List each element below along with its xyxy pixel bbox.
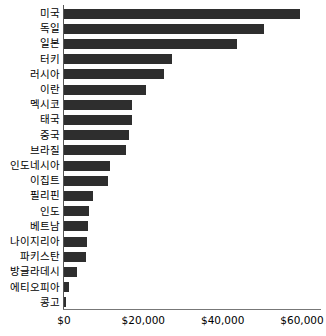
category-label: 방글라데시: [10, 264, 60, 278]
category-label: 콩고: [40, 295, 60, 309]
category-label: 독일: [40, 21, 60, 35]
category-label: 에티오피아: [10, 280, 60, 294]
bar-row: 이집트: [64, 174, 302, 189]
bar: [64, 39, 237, 49]
plot-area: 미국독일일본터키러시아이란멕시코태국중국브라질인도네시아이집트필리핀인도베트남나…: [64, 5, 302, 309]
x-tick-label: $0: [57, 314, 70, 327]
bar: [64, 267, 77, 277]
category-label: 미국: [40, 6, 60, 20]
bar: [64, 9, 300, 19]
bar: [64, 130, 129, 140]
bar: [64, 145, 126, 155]
bar: [64, 54, 172, 64]
bar-row: 에티오피아: [64, 280, 302, 295]
bar: [64, 69, 164, 79]
bar: [64, 297, 66, 307]
x-tick-label: $60,000: [280, 314, 323, 327]
bar: [64, 282, 69, 292]
category-label: 인도: [40, 204, 60, 218]
category-label: 필리핀: [30, 188, 60, 202]
x-tick-label: $40,000: [201, 314, 244, 327]
category-label: 터키: [40, 52, 60, 66]
bar: [64, 176, 108, 186]
bar-row: 일본: [64, 37, 302, 52]
bar: [64, 115, 132, 125]
bar-row: 중국: [64, 128, 302, 143]
x-tick-label: $20,000: [122, 314, 165, 327]
bar-row: 터키: [64, 52, 302, 67]
category-label: 파키스탄: [20, 249, 60, 263]
category-label: 베트남: [30, 219, 60, 233]
bar-row: 인도네시아: [64, 159, 302, 174]
bar-row: 브라질: [64, 143, 302, 158]
bar: [64, 191, 93, 201]
bar-row: 이란: [64, 83, 302, 98]
category-label: 러시아: [30, 67, 60, 81]
bar-chart: 미국독일일본터키러시아이란멕시코태국중국브라질인도네시아이집트필리핀인도베트남나…: [0, 0, 326, 336]
bar: [64, 100, 132, 110]
category-label: 브라질: [30, 143, 60, 157]
bar-row: 필리핀: [64, 189, 302, 204]
category-label: 태국: [40, 112, 60, 126]
category-label: 이집트: [30, 173, 60, 187]
bar-row: 방글라데시: [64, 265, 302, 280]
category-label: 이란: [40, 82, 60, 96]
bar: [64, 221, 88, 231]
bar-row: 콩고: [64, 295, 302, 310]
bar: [64, 85, 146, 95]
bar-row: 나이지리아: [64, 235, 302, 250]
bar-row: 미국: [64, 7, 302, 22]
category-label: 멕시코: [30, 97, 60, 111]
bar: [64, 206, 89, 216]
category-label: 일본: [40, 36, 60, 50]
bar: [64, 161, 110, 171]
category-label: 중국: [40, 128, 60, 142]
bar: [64, 237, 87, 247]
category-label: 인도네시아: [10, 158, 60, 172]
bar-row: 베트남: [64, 219, 302, 234]
bar-row: 러시아: [64, 67, 302, 82]
bar-row: 태국: [64, 113, 302, 128]
bar: [64, 24, 264, 34]
bar-row: 파키스탄: [64, 250, 302, 265]
category-label: 나이지리아: [10, 234, 60, 248]
bar-row: 멕시코: [64, 98, 302, 113]
bar-row: 독일: [64, 22, 302, 37]
bar: [64, 252, 86, 262]
bar-row: 인도: [64, 204, 302, 219]
